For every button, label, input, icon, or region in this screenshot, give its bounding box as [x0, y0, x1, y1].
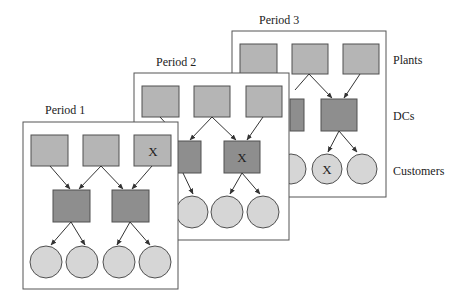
customer-node: [30, 246, 62, 278]
dc-node: [290, 99, 304, 131]
plant-node: [83, 135, 119, 166]
plant-node: [142, 86, 179, 117]
dc-node: [321, 99, 357, 131]
plant-node: [240, 44, 277, 74]
customer-node: [139, 246, 171, 278]
customer-node: [66, 246, 98, 278]
customer-node: [247, 196, 279, 228]
period-2-title: Period 2: [156, 55, 196, 69]
plant-node: [194, 86, 230, 117]
row-label-plants: Plants: [393, 53, 423, 67]
customer-node: [211, 196, 243, 228]
period-1-panel: Period 1 X: [23, 103, 178, 289]
dc-node: [53, 190, 90, 222]
period-1-title: Period 1: [45, 103, 85, 117]
closed-marker: X: [322, 162, 332, 177]
closed-marker: X: [148, 144, 158, 159]
customer-node: [103, 246, 135, 278]
plant-node: [343, 44, 379, 74]
customer-node: [347, 154, 377, 184]
plant-node: [31, 135, 68, 166]
multi-period-network-diagram: Period 3 X Plants DCs Customers Period 2…: [0, 0, 463, 302]
period-3-title: Period 3: [259, 13, 299, 27]
dc-node: [112, 190, 149, 222]
plant-node: [246, 86, 282, 117]
row-label-dcs: DCs: [393, 109, 415, 123]
plant-node: [292, 44, 328, 74]
closed-marker: X: [237, 150, 247, 165]
customer-node: [176, 196, 208, 228]
row-label-customers: Customers: [393, 164, 445, 178]
